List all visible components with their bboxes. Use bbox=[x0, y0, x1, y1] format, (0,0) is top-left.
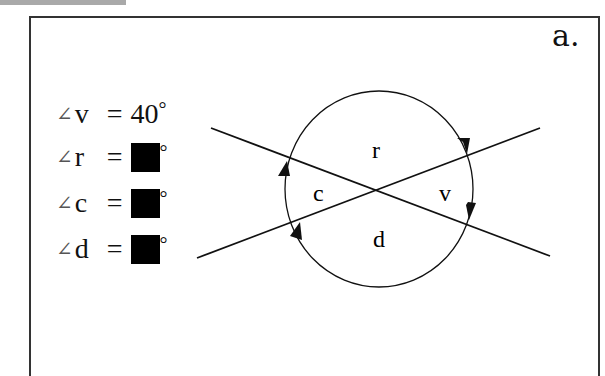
region-label-v: v bbox=[439, 180, 451, 206]
region-label-c: c bbox=[313, 180, 324, 206]
region-label-d: d bbox=[373, 226, 385, 252]
arrow-icon bbox=[466, 202, 476, 220]
region-label-r: r bbox=[372, 137, 380, 163]
line-ascending bbox=[197, 128, 540, 258]
